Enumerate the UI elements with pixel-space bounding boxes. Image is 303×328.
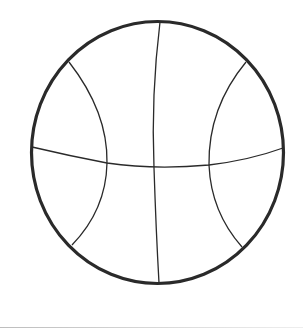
basketball-icon	[0, 0, 303, 328]
horizontal-seam	[32, 147, 283, 167]
left-curve-seam	[69, 62, 107, 245]
vertical-seam	[153, 22, 160, 283]
right-curve-seam	[209, 62, 246, 247]
